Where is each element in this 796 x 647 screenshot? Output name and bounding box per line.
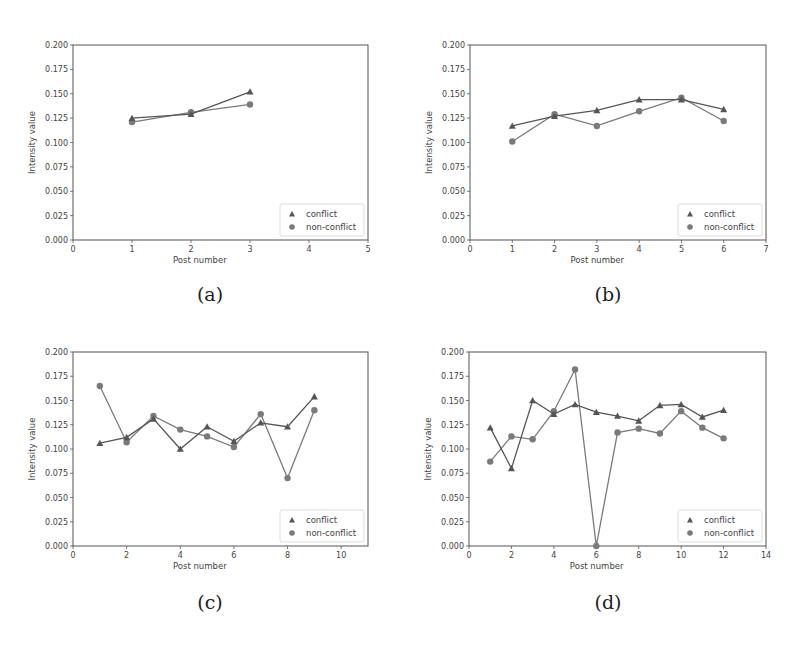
legend: conflictnon-conflict xyxy=(280,204,364,236)
y-tick-label: 0.100 xyxy=(45,139,68,148)
y-axis-label: Intensity value xyxy=(27,418,37,481)
y-axis-label: Intensity value xyxy=(27,111,37,174)
x-tick-label: 0 xyxy=(70,245,75,254)
y-tick-label: 0.100 xyxy=(442,139,465,148)
x-tick-label: 6 xyxy=(231,551,236,560)
caption-d: (d) xyxy=(578,591,638,613)
legend-label: conflict xyxy=(704,209,736,219)
y-tick-label: 0.075 xyxy=(441,469,464,478)
y-tick-label: 0.050 xyxy=(441,494,464,503)
x-tick-label: 0 xyxy=(70,551,75,560)
x-tick-label: 2 xyxy=(552,245,557,254)
y-axis-label: Intensity value xyxy=(424,111,434,174)
x-tick-label: 10 xyxy=(676,551,686,560)
legend-circle-icon xyxy=(289,530,295,536)
y-tick-label: 0.125 xyxy=(45,421,68,430)
chart-a-svg: 0.0000.0250.0500.0750.1000.1250.1500.175… xyxy=(0,0,398,320)
y-tick-label: 0.050 xyxy=(45,187,68,196)
y-tick-label: 0.125 xyxy=(442,114,465,123)
y-tick-label: 0.150 xyxy=(441,397,464,406)
circle-marker-icon xyxy=(529,436,535,442)
circle-marker-icon xyxy=(487,458,493,464)
series-line-non-conflict xyxy=(100,386,315,478)
circle-marker-icon xyxy=(177,426,183,432)
circle-marker-icon xyxy=(509,138,515,144)
y-tick-label: 0.175 xyxy=(442,65,465,74)
triangle-marker-icon xyxy=(230,438,237,444)
triangle-marker-icon xyxy=(487,424,494,430)
x-tick-label: 5 xyxy=(365,245,370,254)
x-tick-label: 6 xyxy=(721,245,726,254)
x-axis-label: Post number xyxy=(173,561,227,571)
y-tick-label: 0.150 xyxy=(442,90,465,99)
x-tick-label: 4 xyxy=(306,245,311,254)
y-tick-label: 0.075 xyxy=(45,163,68,172)
x-axis-label: Post number xyxy=(173,255,227,265)
y-tick-label: 0.000 xyxy=(45,542,68,551)
x-tick-label: 4 xyxy=(551,551,556,560)
triangle-marker-icon xyxy=(247,88,254,94)
y-tick-label: 0.050 xyxy=(45,494,68,503)
y-tick-label: 0.200 xyxy=(45,41,68,50)
circle-marker-icon xyxy=(97,383,103,389)
series-line-conflict xyxy=(490,401,723,469)
y-tick-label: 0.000 xyxy=(441,542,464,551)
y-axis-label: Intensity value xyxy=(423,418,433,481)
circle-marker-icon xyxy=(593,543,599,549)
y-tick-label: 0.125 xyxy=(441,421,464,430)
y-tick-label: 0.150 xyxy=(45,90,68,99)
chart-panel-c: 0.0000.0250.0500.0750.1000.1250.1500.175… xyxy=(0,320,398,647)
y-tick-label: 0.150 xyxy=(45,397,68,406)
legend-circle-icon xyxy=(687,530,693,536)
x-tick-label: 1 xyxy=(510,245,515,254)
caption-a: (a) xyxy=(180,283,240,305)
triangle-marker-icon xyxy=(572,401,579,407)
circle-marker-icon xyxy=(258,411,264,417)
chart-panel-a: 0.0000.0250.0500.0750.1000.1250.1500.175… xyxy=(0,0,398,320)
triangle-marker-icon xyxy=(311,393,318,399)
y-tick-label: 0.025 xyxy=(45,518,68,527)
x-tick-label: 10 xyxy=(336,551,346,560)
caption-b: (b) xyxy=(578,283,638,305)
y-tick-label: 0.050 xyxy=(442,187,465,196)
legend-label: non-conflict xyxy=(306,528,357,538)
circle-marker-icon xyxy=(614,429,620,435)
y-tick-label: 0.200 xyxy=(45,348,68,357)
legend-label: non-conflict xyxy=(306,222,357,232)
x-tick-label: 4 xyxy=(178,551,183,560)
legend-label: non-conflict xyxy=(704,222,755,232)
y-tick-label: 0.000 xyxy=(442,236,465,245)
circle-marker-icon xyxy=(636,108,642,114)
x-tick-label: 8 xyxy=(285,551,290,560)
circle-marker-icon xyxy=(311,407,317,413)
legend-label: conflict xyxy=(306,515,338,525)
y-tick-label: 0.075 xyxy=(442,163,465,172)
y-tick-label: 0.075 xyxy=(45,469,68,478)
chart-b-svg: 0.0000.0250.0500.0750.1000.1250.1500.175… xyxy=(398,0,796,320)
circle-marker-icon xyxy=(204,433,210,439)
x-axis-label: Post number xyxy=(570,561,624,571)
x-tick-label: 2 xyxy=(124,551,129,560)
legend-circle-icon xyxy=(687,224,693,230)
y-tick-label: 0.175 xyxy=(45,65,68,74)
y-tick-label: 0.000 xyxy=(45,236,68,245)
y-tick-label: 0.175 xyxy=(441,372,464,381)
x-tick-label: 0 xyxy=(467,245,472,254)
series-line-non-conflict xyxy=(512,98,723,142)
y-tick-label: 0.200 xyxy=(441,348,464,357)
y-tick-label: 0.200 xyxy=(442,41,465,50)
caption-c: (c) xyxy=(180,591,240,613)
x-tick-label: 2 xyxy=(188,245,193,254)
x-tick-label: 0 xyxy=(466,551,471,560)
circle-marker-icon xyxy=(508,433,514,439)
x-tick-label: 8 xyxy=(636,551,641,560)
x-tick-label: 1 xyxy=(129,245,134,254)
y-tick-label: 0.125 xyxy=(45,114,68,123)
circle-marker-icon xyxy=(594,123,600,129)
circle-marker-icon xyxy=(284,475,290,481)
legend: conflictnon-conflict xyxy=(678,204,762,236)
triangle-marker-icon xyxy=(720,407,727,413)
circle-marker-icon xyxy=(657,430,663,436)
series-line-conflict xyxy=(100,397,315,449)
triangle-marker-icon xyxy=(529,397,536,403)
